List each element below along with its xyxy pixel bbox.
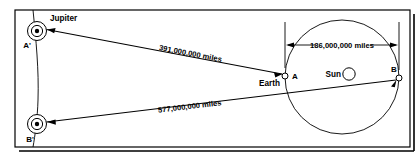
dimension-label-distance-far: 577,000,000 miles xyxy=(158,98,222,114)
jupiter-label: Jupiter xyxy=(50,14,78,23)
jupiter-position-b-core-icon xyxy=(35,122,39,126)
sight-line-arrow-to-b-prime-icon xyxy=(47,119,56,124)
earth-label: Earth xyxy=(259,79,280,88)
dimension-label-earth-orbit: 186,000,000 miles xyxy=(310,41,374,50)
dimension-label-distance-near: 391,000,000 miles xyxy=(158,43,222,64)
sun-label: Sun xyxy=(326,70,341,79)
sight-line-arrow-to-a-prime-icon xyxy=(47,28,56,33)
dimension-arrow-right-icon xyxy=(390,42,398,47)
jupiter-position-a-core-icon xyxy=(35,29,39,33)
point-label-a-prime: A' xyxy=(23,41,31,50)
sun-icon xyxy=(343,68,355,80)
frame-drop-shadow xyxy=(19,14,414,151)
sight-line-b-prime-to-b xyxy=(47,80,397,122)
dimension-arrow-left-icon xyxy=(286,42,294,47)
point-label-b-prime: B' xyxy=(26,135,34,144)
earth-position-b-icon xyxy=(396,75,402,81)
point-label-a: A xyxy=(292,72,298,81)
point-label-b: B xyxy=(391,65,397,74)
sight-line-arrow-to-b-icon xyxy=(391,80,397,87)
earth-position-a-icon xyxy=(282,73,288,79)
earth-orbit-circle xyxy=(285,20,399,134)
earth-jupiter-distance-diagram: 186,000,000 miles 391,000,000 miles 577,… xyxy=(0,0,420,157)
diagram-root: 186,000,000 miles 391,000,000 miles 577,… xyxy=(0,0,420,157)
